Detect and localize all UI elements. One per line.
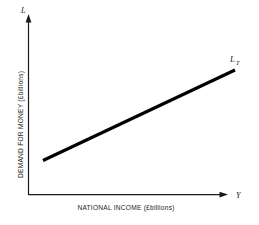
x-axis-title: NATIONAL INCOME (£billions) xyxy=(77,204,174,212)
chart-figure: L Y L T DEMAND FOR MONEY (£billions) NAT… xyxy=(0,0,259,225)
y-axis-variable-label: L xyxy=(20,6,26,15)
chart-background xyxy=(0,0,259,225)
y-axis-title: DEMAND FOR MONEY (£billions) xyxy=(17,71,25,178)
chart-canvas: L Y L T DEMAND FOR MONEY (£billions) NAT… xyxy=(0,0,259,225)
curve-label-main: L xyxy=(229,54,235,64)
